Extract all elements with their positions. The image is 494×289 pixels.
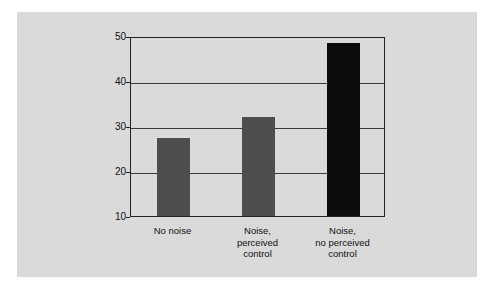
y-tick-label-50: 50 <box>102 32 126 42</box>
y-tick-mark-30 <box>126 127 130 128</box>
x-category-line: no perceived <box>288 237 398 249</box>
plot-area <box>130 37 385 217</box>
y-tick-mark-40 <box>126 82 130 83</box>
bar-3 <box>327 43 360 216</box>
x-category-label-3: Noise,no perceivedcontrol <box>288 225 398 260</box>
y-tick-mark-50 <box>126 37 130 38</box>
y-axis-tick-labels: 5040302010 <box>100 0 126 289</box>
y-tick-mark-10 <box>126 217 130 218</box>
x-category-line: control <box>288 248 398 260</box>
bar-chart-figure: Percentage of errors in problem solving … <box>0 0 494 289</box>
y-tick-label-10: 10 <box>102 212 126 222</box>
y-tick-mark-20 <box>126 172 130 173</box>
bar-1 <box>157 138 190 216</box>
y-tick-label-30: 30 <box>102 122 126 132</box>
y-tick-label-40: 40 <box>102 77 126 87</box>
x-category-line: Noise, <box>288 225 398 237</box>
bar-2 <box>242 117 275 216</box>
y-tick-label-20: 20 <box>102 167 126 177</box>
